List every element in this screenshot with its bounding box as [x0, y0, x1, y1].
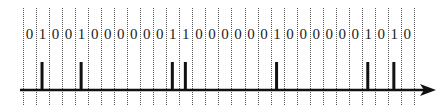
bit-label: 0	[401, 25, 414, 43]
bit-label: 0	[258, 25, 271, 43]
bit-label: 1	[36, 25, 49, 43]
bit-label: 1	[271, 25, 284, 43]
bit-label: 1	[75, 25, 88, 43]
bit-label: 0	[62, 25, 75, 43]
bit-label: 0	[205, 25, 218, 43]
bit-label: 0	[323, 25, 336, 43]
pulse-train-diagram: 010010000001100000010000001010	[0, 0, 448, 108]
bit-label: 0	[23, 25, 36, 43]
bit-label: 0	[245, 25, 258, 43]
bit-label: 1	[362, 25, 375, 43]
bit-label: 0	[284, 25, 297, 43]
diagram-canvas	[0, 0, 448, 108]
bit-label: 0	[297, 25, 310, 43]
bit-label: 0	[127, 25, 140, 43]
bit-label: 0	[140, 25, 153, 43]
bit-label: 0	[231, 25, 244, 43]
pulse	[275, 62, 278, 90]
bit-label: 0	[310, 25, 323, 43]
bit-label: 1	[166, 25, 179, 43]
bit-label: 0	[336, 25, 349, 43]
bit-label: 0	[375, 25, 388, 43]
pulse	[80, 62, 83, 90]
bit-label: 0	[101, 25, 114, 43]
bit-label: 0	[153, 25, 166, 43]
bit-label: 0	[192, 25, 205, 43]
pulse	[366, 62, 369, 90]
bit-label: 1	[179, 25, 192, 43]
bit-label: 0	[49, 25, 62, 43]
pulse	[184, 62, 187, 90]
pulse	[171, 62, 174, 90]
bit-label: 0	[114, 25, 127, 43]
bit-label: 1	[388, 25, 401, 43]
bit-label: 0	[349, 25, 362, 43]
pulse	[392, 62, 395, 90]
pulse	[41, 62, 44, 90]
bit-label: 0	[88, 25, 101, 43]
bit-label: 0	[218, 25, 231, 43]
